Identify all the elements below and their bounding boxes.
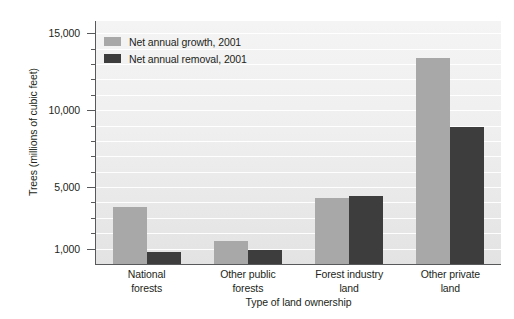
bar-removal (450, 127, 484, 264)
y-tick-minor (91, 141, 96, 142)
x-category-label: Other publicforests (197, 268, 298, 295)
legend-item-removal: Net annual removal, 2001 (104, 51, 247, 66)
y-tick-minor (91, 79, 96, 80)
legend-label-removal: Net annual removal, 2001 (129, 53, 247, 65)
x-axis-line (95, 264, 501, 265)
y-axis-ticks (82, 0, 96, 319)
bar-removal (349, 196, 383, 264)
y-tick-major (87, 110, 96, 111)
y-tick-major (87, 187, 96, 188)
y-tick-minor (91, 218, 96, 219)
y-tick-minor (91, 126, 96, 127)
y-tick-major (87, 249, 96, 250)
y-tick-minor (91, 64, 96, 65)
y-axis-title: Trees (millions of cubic feet) (22, 0, 44, 264)
bar-growth (113, 207, 147, 264)
y-tick-minor (91, 172, 96, 173)
y-tick-minor (91, 49, 96, 50)
bar-growth (315, 198, 349, 264)
chart-legend: Net annual growth, 2001 Net annual remov… (104, 34, 247, 68)
bar-removal (248, 250, 282, 264)
y-tick-minor (91, 95, 96, 96)
y-tick-minor (91, 156, 96, 157)
bar-removal (147, 252, 181, 264)
x-category-label: Nationalforests (96, 268, 197, 295)
x-axis-title: Type of land ownership (96, 296, 501, 308)
x-category-label: Other privateland (400, 268, 501, 295)
bar-chart-figure: 1,0005,00010,00015,000 Trees (millions o… (0, 0, 514, 319)
y-tick-major (87, 33, 96, 34)
legend-label-growth: Net annual growth, 2001 (129, 36, 241, 48)
legend-swatch-growth-icon (104, 37, 121, 46)
bar-growth (416, 58, 450, 264)
y-tick-minor (91, 233, 96, 234)
legend-swatch-removal-icon (104, 54, 121, 63)
y-tick-minor (91, 202, 96, 203)
bar-growth (214, 241, 248, 264)
legend-item-growth: Net annual growth, 2001 (104, 34, 247, 49)
x-category-label: Forest industryland (299, 268, 400, 295)
